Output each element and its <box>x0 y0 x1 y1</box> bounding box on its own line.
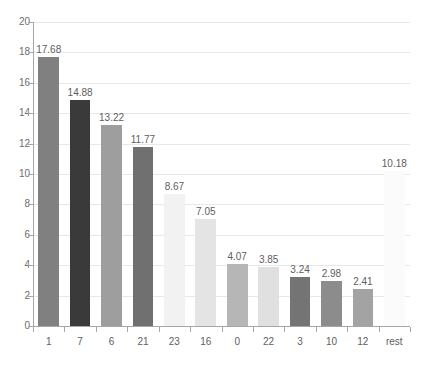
y-axis-label: 20 <box>4 17 30 27</box>
bar-value-label: 13.22 <box>90 112 132 123</box>
bar <box>384 171 405 326</box>
bar-value-label: 10.18 <box>373 158 415 169</box>
y-axis-tick <box>28 174 33 175</box>
bar <box>133 147 154 326</box>
bar-value-label: 8.67 <box>153 181 195 192</box>
bar-value-label: 14.88 <box>59 87 101 98</box>
y-axis-tick <box>28 52 33 53</box>
bar-chart: 02468101214161820 17621231602231012rest … <box>0 0 423 366</box>
y-axis-tick <box>28 113 33 114</box>
y-axis-label: 18 <box>4 47 30 57</box>
bar <box>227 264 248 326</box>
y-axis-tick <box>28 326 33 327</box>
x-axis-tick <box>284 327 285 332</box>
gridline <box>33 83 410 84</box>
y-axis-tick <box>28 83 33 84</box>
x-axis-tick <box>127 327 128 332</box>
bar <box>321 281 342 326</box>
y-axis-label: 14 <box>4 108 30 118</box>
y-axis-label: 0 <box>4 321 30 331</box>
y-axis-tick <box>28 235 33 236</box>
y-axis-tick <box>28 265 33 266</box>
bar <box>70 100 91 326</box>
y-axis-label: 4 <box>4 260 30 270</box>
bar-value-label: 11.77 <box>122 134 164 145</box>
x-axis-tick <box>96 327 97 332</box>
y-axis-tick <box>28 144 33 145</box>
y-axis-tick <box>28 296 33 297</box>
bar-value-label: 2.41 <box>342 276 384 287</box>
x-axis-tick <box>159 327 160 332</box>
x-axis-tick <box>379 327 380 332</box>
y-axis-label: 16 <box>4 78 30 88</box>
x-axis-tick <box>347 327 348 332</box>
x-axis-tick <box>222 327 223 332</box>
bar <box>353 289 374 326</box>
y-axis-tick <box>28 204 33 205</box>
y-axis-label: 6 <box>4 230 30 240</box>
x-axis-tick <box>316 327 317 332</box>
bar <box>164 194 185 326</box>
x-axis-tick <box>190 327 191 332</box>
y-axis-label: 12 <box>4 139 30 149</box>
y-axis-labels: 02468101214161820 <box>0 0 30 366</box>
y-axis-label: 10 <box>4 169 30 179</box>
x-axis-tick <box>64 327 65 332</box>
y-axis-tick <box>28 22 33 23</box>
bar-value-label: 17.68 <box>28 44 70 55</box>
gridline <box>33 52 410 53</box>
y-axis-line <box>33 22 34 326</box>
y-axis-label: 8 <box>4 199 30 209</box>
y-axis-label: 2 <box>4 291 30 301</box>
bar <box>38 57 59 326</box>
bar-value-label: 7.05 <box>185 206 227 217</box>
x-axis-tick <box>410 327 411 332</box>
x-axis-category-label: rest <box>372 336 416 347</box>
x-axis-tick <box>253 327 254 332</box>
gridline <box>33 22 410 23</box>
x-axis-tick <box>33 327 34 332</box>
bar <box>101 125 122 326</box>
bar <box>195 219 216 326</box>
bar <box>258 267 279 326</box>
bar <box>290 277 311 326</box>
